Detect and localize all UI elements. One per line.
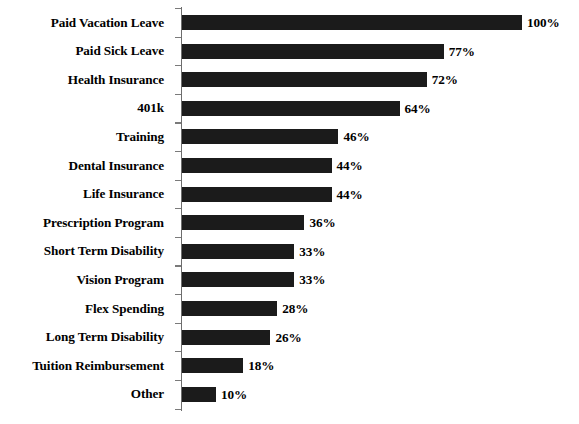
bar-row: 44% — [182, 158, 363, 173]
axis-tick — [175, 8, 181, 9]
axis-tick — [175, 65, 181, 66]
bar-row: 77% — [182, 44, 475, 59]
bar-value-label: 44% — [337, 158, 363, 173]
plot-area: 100%77%72%64%46%44%44%36%33%33%28%26%18%… — [182, 0, 579, 424]
bar-value-label: 10% — [221, 387, 247, 402]
bar-row: 26% — [182, 330, 301, 345]
axis-tick — [175, 265, 181, 266]
bar-row: 64% — [182, 101, 431, 116]
category-label: Flex Spending — [0, 302, 164, 316]
bar-value-label: 26% — [275, 330, 301, 345]
axis-tick — [175, 208, 181, 209]
category-label: Short Term Disability — [0, 244, 164, 258]
bar — [182, 301, 277, 316]
category-label: Life Insurance — [0, 187, 164, 201]
category-label: 401k — [0, 101, 164, 115]
bar-value-label: 77% — [449, 44, 475, 59]
bar-row: 33% — [182, 244, 325, 259]
category-label: Dental Insurance — [0, 159, 164, 173]
bar — [182, 101, 400, 116]
category-label: Training — [0, 130, 164, 144]
axis-tick — [175, 180, 181, 181]
bar — [182, 72, 427, 87]
bar-row: 72% — [182, 72, 458, 87]
category-label: Vision Program — [0, 273, 164, 287]
category-label: Health Insurance — [0, 73, 164, 87]
bar-row: 44% — [182, 187, 363, 202]
axis-tick — [175, 237, 181, 238]
axis-tick — [175, 409, 181, 410]
bar-row: 46% — [182, 129, 369, 144]
bar-value-label: 33% — [299, 244, 325, 259]
category-label: Paid Sick Leave — [0, 44, 164, 58]
axis-tick — [175, 351, 181, 352]
bar — [182, 272, 294, 287]
bar — [182, 358, 243, 373]
bar — [182, 158, 332, 173]
category-label: Other — [0, 387, 164, 401]
bar — [182, 187, 332, 202]
bar-row: 100% — [182, 15, 560, 30]
axis-tick — [175, 94, 181, 95]
axis-tick — [175, 122, 181, 123]
bar — [182, 129, 338, 144]
bar — [182, 44, 444, 59]
bar-row: 28% — [182, 301, 308, 316]
bar-value-label: 72% — [432, 72, 458, 87]
axis-tick — [175, 37, 181, 38]
bar-value-label: 100% — [527, 15, 560, 30]
bar-chart: Paid Vacation LeavePaid Sick LeaveHealth… — [0, 0, 579, 424]
category-label: Paid Vacation Leave — [0, 16, 164, 30]
bar-row: 10% — [182, 387, 247, 402]
bar — [182, 244, 294, 259]
bar — [182, 387, 216, 402]
bar-value-label: 46% — [343, 129, 369, 144]
category-axis-labels: Paid Vacation LeavePaid Sick LeaveHealth… — [0, 0, 173, 424]
bar-row: 33% — [182, 272, 325, 287]
category-label: Tuition Reimbursement — [0, 359, 164, 373]
category-label: Long Term Disability — [0, 330, 164, 344]
bar — [182, 15, 522, 30]
axis-tick — [175, 151, 181, 152]
bar-value-label: 33% — [299, 272, 325, 287]
bar-value-label: 18% — [248, 358, 274, 373]
axis-tick — [175, 294, 181, 295]
bar-row: 36% — [182, 215, 335, 230]
bar-value-label: 64% — [405, 101, 431, 116]
bar-value-label: 36% — [309, 215, 335, 230]
bar-row: 18% — [182, 358, 274, 373]
bar — [182, 330, 270, 345]
axis-tick — [175, 380, 181, 381]
bar-value-label: 28% — [282, 301, 308, 316]
axis-tick — [175, 323, 181, 324]
category-label: Prescription Program — [0, 216, 164, 230]
bar-value-label: 44% — [337, 187, 363, 202]
bar — [182, 215, 304, 230]
